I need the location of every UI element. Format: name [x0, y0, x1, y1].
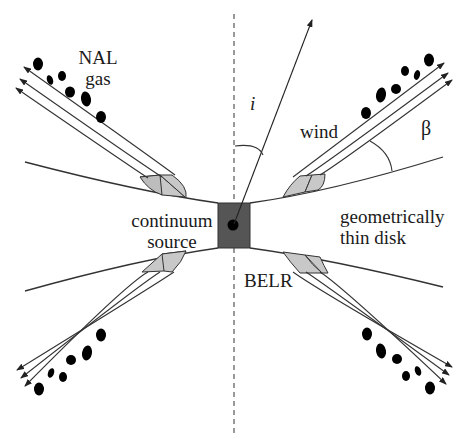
central-black-hole-dot: [228, 220, 239, 231]
wind-arrow: [20, 79, 162, 177]
beta-label: β: [421, 118, 431, 139]
wind-arrow: [25, 272, 148, 386]
continuum-source-label: continuum source: [124, 210, 220, 252]
nal-label: NAL gas: [68, 47, 128, 89]
thin-disk-label: geometrically thin disk: [340, 206, 444, 248]
nal-label-line1: NAL: [68, 47, 128, 68]
disk-label-line2: thin disk: [340, 227, 444, 248]
wind-arrow: [306, 272, 449, 375]
belr-label: BELR: [244, 270, 293, 291]
inclination-label: i: [250, 93, 255, 114]
wind-label: wind: [300, 121, 338, 142]
wind-arrow: [320, 272, 446, 384]
beta-angle-arc: [370, 141, 392, 171]
nal-label-line2: gas: [68, 68, 128, 89]
disk-label-line1: geometrically: [340, 206, 444, 227]
continuum-label-line1: continuum: [124, 210, 220, 231]
inclination-angle-arc: [235, 145, 263, 155]
continuum-label-line2: source: [124, 231, 220, 252]
